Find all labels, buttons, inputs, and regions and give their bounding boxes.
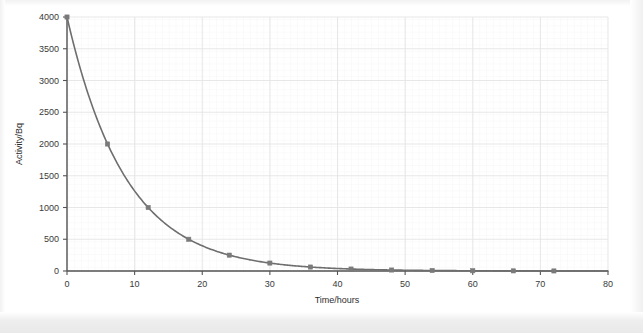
x-tick-label: 50 bbox=[400, 279, 410, 289]
x-axis-title: Time/hours bbox=[315, 295, 360, 305]
chart-page: 01020304050607080 0500100015002000250030… bbox=[0, 0, 643, 333]
x-tick-label: 80 bbox=[603, 279, 613, 289]
x-axis-tick-labels: 01020304050607080 bbox=[64, 279, 613, 289]
data-point-marker bbox=[268, 261, 272, 265]
data-point-marker bbox=[187, 237, 191, 241]
data-point-marker bbox=[227, 253, 231, 257]
data-point-marker bbox=[552, 269, 556, 273]
x-tick-label: 70 bbox=[535, 279, 545, 289]
y-tick-label: 3500 bbox=[39, 44, 59, 54]
data-point-marker bbox=[308, 265, 312, 269]
y-tick-label: 2500 bbox=[39, 107, 59, 117]
y-tick-label: 500 bbox=[44, 234, 59, 244]
data-point-marker bbox=[349, 267, 353, 271]
data-point-marker bbox=[390, 268, 394, 272]
data-point-marker bbox=[65, 15, 69, 19]
data-point-marker bbox=[146, 205, 150, 209]
data-point-marker bbox=[105, 142, 109, 146]
y-tick-label: 4000 bbox=[39, 12, 59, 22]
data-point-marker bbox=[471, 269, 475, 273]
x-tick-label: 20 bbox=[197, 279, 207, 289]
y-tick-label: 3000 bbox=[39, 76, 59, 86]
y-axis-title: Activity/Bq bbox=[14, 123, 24, 165]
y-tick-label: 0 bbox=[54, 266, 59, 276]
data-point-marker bbox=[511, 269, 515, 273]
y-tick-label: 1500 bbox=[39, 171, 59, 181]
x-tick-label: 0 bbox=[64, 279, 69, 289]
x-tick-label: 40 bbox=[332, 279, 342, 289]
decay-chart: 01020304050607080 0500100015002000250030… bbox=[0, 0, 643, 333]
x-tick-label: 10 bbox=[130, 279, 140, 289]
x-tick-label: 60 bbox=[468, 279, 478, 289]
y-axis-tick-labels: 05001000150020002500300035004000 bbox=[39, 12, 59, 276]
y-tick-label: 1000 bbox=[39, 203, 59, 213]
x-tick-label: 30 bbox=[265, 279, 275, 289]
data-point-marker bbox=[430, 268, 434, 272]
y-tick-label: 2000 bbox=[39, 139, 59, 149]
